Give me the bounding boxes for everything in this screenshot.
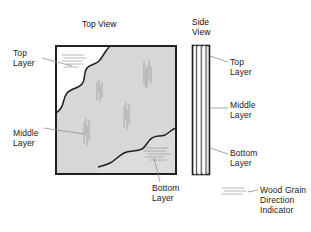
side-view-panel — [193, 46, 210, 175]
side-view-top-layer — [194, 46, 196, 175]
side-view-bottom-layer — [203, 46, 206, 175]
right-top-layer-label-line1: Top — [230, 57, 244, 68]
left-middle-layer-label-line2: Layer — [13, 138, 35, 149]
wood-grain-icon-legend — [222, 188, 246, 194]
legend-label-line2: Direction — [260, 195, 294, 206]
left-top-layer-label-line2: Layer — [13, 58, 35, 69]
right-middle-layer-label-line1: Middle — [230, 100, 256, 111]
bottom-layer-label-line1: Bottom — [152, 183, 180, 194]
top-view-title: Top View — [82, 19, 116, 30]
left-middle-layer-label-line1: Middle — [13, 128, 39, 139]
right-top-layer-label-line2: Layer — [230, 67, 252, 78]
right-middle-layer-label-line2: Layer — [230, 110, 252, 121]
side-view-title-line1: Side — [192, 17, 209, 28]
side-view-title-line2: View — [192, 27, 210, 38]
leader-line-bottom-right — [210, 148, 228, 154]
diagram-canvas: Top View Side View Top Layer Middle Laye… — [0, 0, 311, 232]
top-view-panel — [56, 46, 176, 174]
legend-label-line1: Wood Grain — [260, 185, 306, 196]
side-view-middle-layer — [198, 46, 201, 175]
bottom-layer-label-line2: Layer — [152, 193, 174, 204]
leader-line-legend — [248, 190, 258, 192]
legend-label-line3: Indicator — [260, 205, 294, 216]
left-top-layer-label-line1: Top — [13, 48, 27, 59]
leader-line-top-right — [210, 56, 228, 62]
right-bottom-layer-label-line2: Layer — [230, 158, 252, 169]
right-bottom-layer-label-line1: Bottom — [230, 148, 258, 159]
